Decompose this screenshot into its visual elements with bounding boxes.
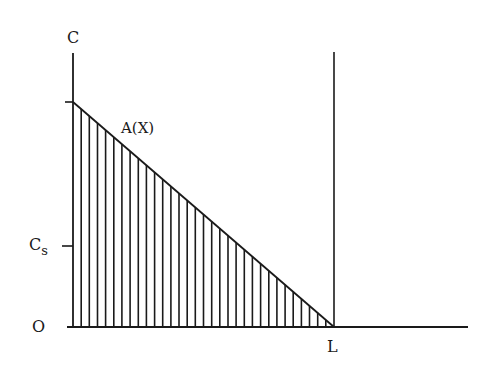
x-mark-label: L (327, 337, 338, 356)
cs-label-sub: s (41, 243, 48, 258)
curve-label: A(X) (120, 119, 154, 137)
cs-label: Cs (29, 235, 48, 258)
diagram-canvas: C A(X) Cs O L (0, 0, 497, 374)
cs-label-main: C (29, 235, 41, 254)
origin-label: O (32, 317, 45, 336)
y-axis-label: C (67, 28, 79, 47)
